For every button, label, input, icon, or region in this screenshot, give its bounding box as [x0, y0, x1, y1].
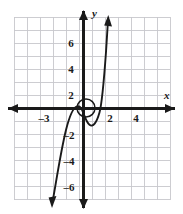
x-tick-neg3: –3: [38, 112, 51, 124]
y-axis-label: y: [90, 7, 97, 19]
y-tick-neg2: –2: [63, 129, 76, 141]
x-axis-arrow-left: [8, 104, 18, 113]
y-axis-arrow-top: [79, 10, 88, 20]
x-axis-arrow-right: [165, 104, 175, 113]
y-tick-4: 4: [68, 63, 74, 75]
y-tick-6: 6: [68, 37, 74, 49]
y-axis-tick-labels: 6 4 2 –2 –4 –6: [63, 37, 76, 193]
x-axis-label: x: [163, 89, 170, 101]
x-tick-4: 4: [133, 112, 139, 124]
cubic-curve: [53, 22, 108, 201]
x-tick-2: 2: [107, 112, 113, 124]
y-tick-neg4: –4: [63, 155, 76, 167]
graph-figure: 6 4 2 –2 –4 –6 –3 2 4 y x: [0, 0, 183, 214]
axes: [8, 10, 175, 209]
curve-arrow-bottom: [49, 196, 57, 208]
y-tick-neg6: –6: [63, 181, 76, 193]
y-axis-arrow-bottom: [79, 199, 88, 209]
y-tick-2: 2: [68, 89, 74, 101]
coordinate-plane: 6 4 2 –2 –4 –6 –3 2 4 y x: [0, 0, 183, 214]
